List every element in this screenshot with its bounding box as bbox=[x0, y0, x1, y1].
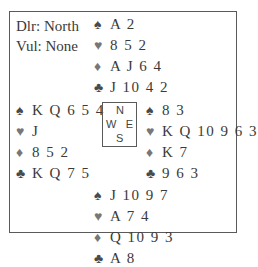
diamond-icon: ♦ bbox=[94, 227, 110, 248]
compass-north: N bbox=[116, 104, 124, 116]
west-hand: ♠K Q 6 5 4 ♥J ♦8 5 2 ♣K Q 7 5 bbox=[16, 100, 105, 184]
vulnerability-label: Vul: None bbox=[16, 36, 79, 56]
south-hearts: A 7 4 bbox=[110, 208, 150, 224]
compass-south: S bbox=[116, 132, 123, 144]
club-icon: ♣ bbox=[94, 77, 110, 98]
east-diamonds: K 7 bbox=[162, 144, 189, 160]
diamond-icon: ♦ bbox=[16, 142, 32, 163]
north-spades: A 2 bbox=[110, 16, 136, 32]
west-spades: K Q 6 5 4 bbox=[32, 102, 105, 118]
east-hearts: K Q 10 9 6 3 bbox=[162, 123, 258, 139]
heart-icon: ♥ bbox=[94, 206, 110, 227]
south-diamonds: Q 10 9 3 bbox=[110, 229, 174, 245]
deal-info: Dlr: North Vul: None bbox=[16, 16, 79, 56]
south-spades: J 10 9 7 bbox=[110, 187, 169, 203]
heart-icon: ♥ bbox=[16, 121, 32, 142]
diamond-icon: ♦ bbox=[146, 142, 162, 163]
spade-icon: ♠ bbox=[94, 14, 110, 35]
compass-east: E bbox=[126, 118, 133, 130]
east-hand: ♠8 3 ♥K Q 10 9 6 3 ♦K 7 ♣9 6 3 bbox=[146, 100, 258, 184]
north-diamonds: A J 6 4 bbox=[110, 58, 163, 74]
north-hand: ♠A 2 ♥8 5 2 ♦A J 6 4 ♣J 10 4 2 bbox=[94, 14, 169, 98]
east-clubs: 9 6 3 bbox=[162, 165, 200, 181]
west-diamonds: 8 5 2 bbox=[32, 144, 70, 160]
east-spades: 8 3 bbox=[162, 102, 185, 118]
spade-icon: ♠ bbox=[146, 100, 162, 121]
club-icon: ♣ bbox=[94, 248, 110, 267]
spade-icon: ♠ bbox=[94, 185, 110, 206]
compass-west: W bbox=[106, 118, 116, 130]
west-hearts: J bbox=[32, 123, 39, 139]
south-hand: ♠J 10 9 7 ♥A 7 4 ♦Q 10 9 3 ♣A 8 bbox=[94, 185, 174, 267]
west-clubs: K Q 7 5 bbox=[32, 165, 90, 181]
dealer-label: Dlr: North bbox=[16, 16, 79, 36]
spade-icon: ♠ bbox=[16, 100, 32, 121]
compass-box: N W E S bbox=[102, 102, 137, 147]
diamond-icon: ♦ bbox=[94, 56, 110, 77]
north-hearts: 8 5 2 bbox=[110, 37, 148, 53]
club-icon: ♣ bbox=[16, 163, 32, 184]
south-clubs: A 8 bbox=[110, 250, 136, 266]
club-icon: ♣ bbox=[146, 163, 162, 184]
north-clubs: J 10 4 2 bbox=[110, 79, 169, 95]
heart-icon: ♥ bbox=[146, 121, 162, 142]
heart-icon: ♥ bbox=[94, 35, 110, 56]
